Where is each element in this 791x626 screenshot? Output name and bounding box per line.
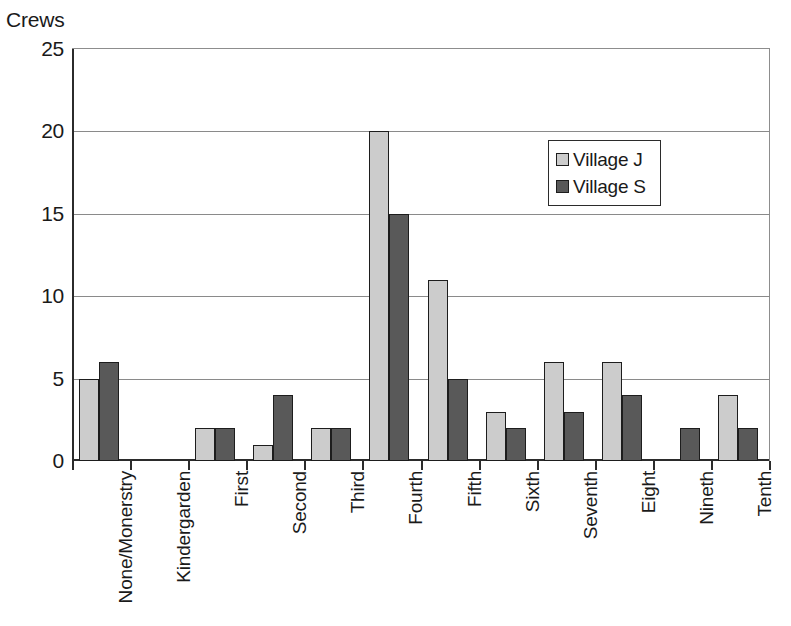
bars-layer	[72, 49, 769, 461]
x-tick-mark	[769, 461, 771, 470]
legend-label-village-s: Village S	[573, 177, 646, 196]
y-tick-label: 0	[2, 450, 64, 471]
legend-item-village-s: Village S	[556, 173, 660, 200]
legend-swatch-icon-village-j	[556, 153, 569, 166]
x-tick-label-text: None/Monerstry	[116, 471, 135, 603]
bar	[389, 214, 409, 461]
plot-right-border	[769, 48, 770, 462]
bar	[253, 445, 273, 461]
y-tick-label: 15	[2, 203, 64, 224]
bar	[602, 362, 622, 461]
x-tick-label-text: Seventh	[581, 471, 600, 539]
x-tick-label-text: Kindergarden	[174, 471, 193, 583]
x-tick-label-text: Nineth	[697, 471, 716, 525]
x-tick-label: Sixth	[516, 471, 535, 512]
x-axis-labels: None/MonerstryKindergardenFirstSecondThi…	[72, 461, 769, 626]
legend-label-village-j: Village J	[573, 150, 643, 169]
y-tick-label: 20	[2, 120, 64, 141]
bar	[331, 428, 351, 461]
x-tick-label: Second	[283, 471, 302, 534]
bar	[622, 395, 642, 461]
bar	[195, 428, 215, 461]
x-tick-label: Fourth	[399, 471, 418, 525]
x-tick-label: Seventh	[574, 471, 593, 539]
x-tick-label-text: Eight	[639, 471, 658, 513]
bar	[718, 395, 738, 461]
bar-chart: Crews 0510152025 None/MonerstryKindergar…	[0, 0, 791, 626]
x-tick-label: None/Monerstry	[109, 471, 128, 603]
bar	[486, 412, 506, 461]
x-tick-label-text: Third	[348, 471, 367, 513]
bar	[506, 428, 526, 461]
x-tick-label-text: Second	[290, 471, 309, 534]
legend-item-village-j: Village J	[556, 146, 660, 173]
x-tick-label: Eight	[632, 471, 651, 513]
legend-swatch-icon-village-s	[556, 180, 569, 193]
bar	[311, 428, 331, 461]
bar	[448, 379, 468, 461]
bar	[544, 362, 564, 461]
x-tick-label: First	[225, 471, 244, 507]
x-tick-label-text: First	[232, 471, 251, 507]
legend: Village J Village S	[548, 140, 661, 206]
x-tick-label-text: Fourth	[406, 471, 425, 525]
bar	[428, 280, 448, 461]
x-tick-label: Kindergarden	[167, 471, 186, 583]
x-tick-label: Nineth	[690, 471, 709, 525]
bar	[215, 428, 235, 461]
bar	[99, 362, 119, 461]
bar	[680, 428, 700, 461]
x-tick-label-text: Sixth	[523, 471, 542, 512]
bar	[738, 428, 758, 461]
x-tick-label: Third	[341, 471, 360, 513]
y-tick-label: 5	[2, 368, 64, 389]
y-axis-ticks: 0510152025	[0, 0, 64, 626]
bar	[564, 412, 584, 461]
x-tick-label-text: Tenth	[755, 471, 774, 516]
x-tick-label: Tenth	[748, 471, 767, 516]
y-tick-label: 25	[2, 38, 64, 59]
bar	[79, 379, 99, 461]
y-tick-label: 10	[2, 285, 64, 306]
bar	[369, 131, 389, 461]
bar	[273, 395, 293, 461]
x-tick-label-text: Fifth	[465, 471, 484, 507]
x-tick-label: Fifth	[458, 471, 477, 507]
